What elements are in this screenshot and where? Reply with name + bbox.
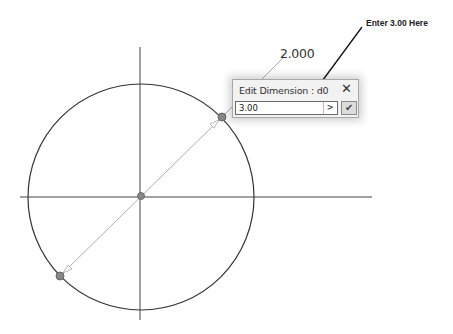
center-point[interactable] xyxy=(138,193,145,200)
sketch-canvas[interactable] xyxy=(0,0,453,334)
lower-left-point[interactable] xyxy=(56,272,64,280)
upper-right-point[interactable] xyxy=(218,113,226,121)
accept-checkmark-button[interactable]: ✔ xyxy=(341,101,357,115)
dimension-value-input[interactable]: 3.00 > xyxy=(235,101,338,115)
input-value: 3.00 xyxy=(239,103,258,113)
close-icon[interactable]: ✕ xyxy=(341,82,352,96)
dimension-arrow-upper xyxy=(210,120,219,128)
dialog-title: Edit Dimension : d0 xyxy=(239,85,328,96)
expand-arrow-icon[interactable]: > xyxy=(323,102,336,114)
callout-text: Enter 3.00 Here xyxy=(366,18,428,28)
edit-dimension-dialog: Edit Dimension : d0 ✕ 3.00 > ✔ xyxy=(232,79,359,118)
dimension-arrow-lower xyxy=(63,265,72,273)
dimension-value-label[interactable]: 2.000 xyxy=(280,46,314,61)
